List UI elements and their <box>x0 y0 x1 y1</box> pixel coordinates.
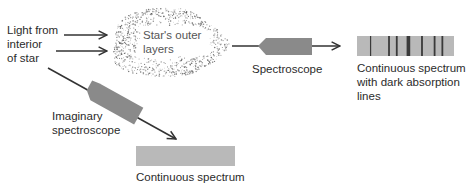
cloud-speckle <box>184 66 185 67</box>
cloud-speckle <box>198 67 199 68</box>
cloud-speckle <box>121 49 123 51</box>
cloud-speckle <box>175 13 176 14</box>
cloud-speckle <box>123 50 124 51</box>
cloud-speckle <box>165 19 166 20</box>
cloud-speckle <box>172 12 173 13</box>
cloud-speckle <box>199 17 200 18</box>
cloud-speckle <box>125 18 126 19</box>
cloud-speckle <box>146 62 147 63</box>
cloud-speckle <box>120 55 121 56</box>
cloud-speckle <box>180 73 181 74</box>
cloud-speckle <box>215 39 216 40</box>
cloud-speckle <box>139 19 140 20</box>
cloud-speckle <box>175 9 176 10</box>
cloud-speckle <box>171 68 172 69</box>
cloud-speckle <box>138 26 139 27</box>
cloud-speckle <box>190 64 192 66</box>
cloud-speckle <box>136 73 137 74</box>
cloud-speckle <box>128 29 129 30</box>
cloud-speckle <box>206 56 207 57</box>
cloud-speckle <box>115 33 116 34</box>
cloud-speckle <box>213 61 214 62</box>
cloud-speckle <box>129 49 130 50</box>
cloud-speckle <box>132 18 133 19</box>
cloud-speckle <box>208 64 209 65</box>
cloud-speckle <box>122 28 123 29</box>
cloud-speckle <box>180 67 181 68</box>
cloud-speckle <box>151 75 152 76</box>
cloud-speckle <box>218 38 219 39</box>
cloud-speckle <box>117 35 118 36</box>
cloud-speckle <box>125 56 126 57</box>
cloud-speckle <box>202 26 203 27</box>
cloud-speckle <box>192 18 193 19</box>
cloud-speckle <box>183 11 184 12</box>
cloud-speckle <box>196 69 197 70</box>
cloud-speckle <box>147 23 149 25</box>
cloud-speckle <box>125 46 126 47</box>
cloud-speckle <box>117 55 118 56</box>
cloud-speckle <box>167 66 168 67</box>
cloud-speckle <box>195 18 196 19</box>
cloud-speckle <box>170 65 171 66</box>
cloud-speckle <box>182 69 183 70</box>
cloud-speckle <box>116 51 117 52</box>
cloud-speckle <box>117 47 118 48</box>
cloud-speckle <box>216 37 217 38</box>
cloud-speckle <box>182 73 183 74</box>
cloud-speckle <box>175 17 176 18</box>
cloud-speckle <box>191 72 193 74</box>
cloud-speckle <box>144 64 145 65</box>
cloud-speckle <box>190 12 191 13</box>
cloud-speckle <box>225 50 226 51</box>
cloud-speckle <box>123 57 124 58</box>
cloud-speckle <box>198 17 199 18</box>
cloud-speckle <box>123 30 124 31</box>
cloud-speckle <box>127 69 128 70</box>
cloud-speckle <box>186 67 187 68</box>
cloud-speckle <box>156 67 157 68</box>
cloud-speckle <box>186 69 187 70</box>
cloud-speckle <box>173 18 174 19</box>
cloud-speckle <box>189 23 190 24</box>
cloud-speckle <box>201 24 202 25</box>
cloud-speckle <box>153 17 154 18</box>
cloud-speckle <box>120 27 121 28</box>
cloud-speckle <box>199 69 200 70</box>
cloud-speckle <box>154 72 155 73</box>
cloud-speckle <box>120 28 122 30</box>
cloud-speckle <box>139 66 140 67</box>
cloud-speckle <box>125 66 127 68</box>
cloud-speckle <box>186 20 187 21</box>
cloud-speckle <box>153 64 154 65</box>
cloud-speckle <box>201 66 202 67</box>
cloud-speckle <box>196 57 197 58</box>
cloud-speckle <box>139 69 140 70</box>
cloud-speckle <box>187 17 188 18</box>
cloud-speckle <box>154 11 155 12</box>
cloud-speckle <box>122 58 123 59</box>
cloud-speckle <box>185 9 186 10</box>
cloud-speckle <box>148 9 149 10</box>
cloud-speckle <box>124 59 125 60</box>
cloud-speckle <box>171 14 172 15</box>
cloud-speckle <box>182 24 183 25</box>
cloud-speckle <box>164 71 165 72</box>
cloud-speckle <box>156 8 157 9</box>
cloud-speckle <box>118 32 119 33</box>
cloud-speckle <box>179 11 180 12</box>
cloud-speckle <box>182 16 183 17</box>
cloud-speckle <box>202 59 203 60</box>
cloud-speckle <box>129 34 130 35</box>
cloud-speckle <box>139 38 140 39</box>
cloud-speckle <box>136 57 137 58</box>
cloud-speckle <box>217 48 218 49</box>
cloud-speckle <box>168 19 169 20</box>
cloud-speckle <box>159 21 160 22</box>
cloud-speckle <box>116 37 117 38</box>
absorption-line-5 <box>421 36 423 56</box>
cloud-speckle <box>178 9 179 10</box>
cloud-speckle <box>118 37 119 38</box>
absorption-label-line-3: lines <box>357 89 466 103</box>
cloud-speckle <box>210 42 211 43</box>
